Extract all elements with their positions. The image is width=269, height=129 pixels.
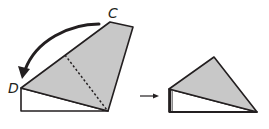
after-fold-figure	[169, 57, 257, 112]
curved-arrow-head-icon	[18, 66, 30, 79]
label-c: C	[108, 5, 118, 21]
label-d: D	[8, 80, 19, 96]
before-fold-figure: C D	[8, 5, 133, 111]
transition-arrow-icon	[140, 94, 159, 99]
folding-diagram: C D	[0, 0, 269, 129]
